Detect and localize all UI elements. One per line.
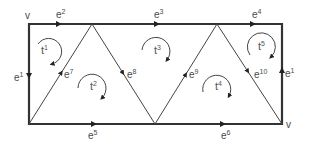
face-label-t3: t3: [154, 45, 161, 56]
edge-label-e5: e5: [88, 131, 97, 141]
vertex-label-top-left: v: [25, 11, 30, 21]
edge-label-e6: e6: [221, 131, 230, 141]
face-label-t5: t5: [258, 41, 265, 52]
edge-e8: [92, 24, 155, 124]
edge-e7: [29, 24, 92, 124]
edge-label-e4: e4: [252, 10, 261, 20]
edge-label-e3: e3: [154, 10, 163, 20]
edge-label-e2: e2: [56, 10, 65, 20]
edge-label-e1-right: e1: [285, 69, 294, 79]
face-label-t1: t1: [41, 45, 48, 56]
edge-e9: [155, 24, 217, 124]
face-label-t4: t4: [215, 81, 222, 92]
face-label-t2: t2: [90, 81, 97, 92]
edge-label-e9: e9: [189, 70, 198, 80]
vertex-label-bottom-right: v: [286, 120, 291, 130]
edge-label-e7: e7: [64, 70, 73, 80]
edge-label-e8: e8: [127, 70, 136, 80]
edge-label-e1-left: e1: [14, 73, 23, 83]
edge-label-e10: e10: [254, 70, 267, 80]
